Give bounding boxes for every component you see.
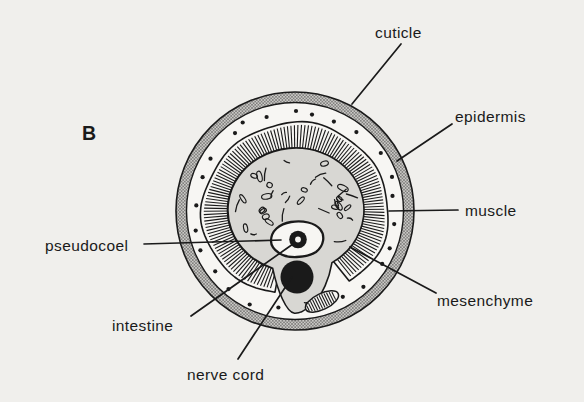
label-muscle: muscle [465, 202, 517, 219]
label-mesenchyme: mesenchyme [437, 292, 533, 309]
label-epidermis: epidermis [455, 108, 526, 125]
panel-letter: B [82, 122, 96, 144]
figure-panel: B cuticle epidermis muscle mesenchyme ps… [0, 0, 584, 402]
label-cuticle: cuticle [375, 24, 422, 41]
cross-section-diagram: B cuticle epidermis muscle mesenchyme ps… [0, 0, 584, 402]
label-intestine: intestine [112, 317, 173, 334]
cuticle-leader-line [352, 44, 401, 104]
label-pseudocoel: pseudocoel [45, 237, 128, 254]
epidermis-leader-line [397, 124, 452, 161]
muscle-leader-line [389, 210, 458, 211]
label-nerve-cord: nerve cord [187, 366, 264, 383]
nerve-cord-structure [281, 261, 314, 294]
